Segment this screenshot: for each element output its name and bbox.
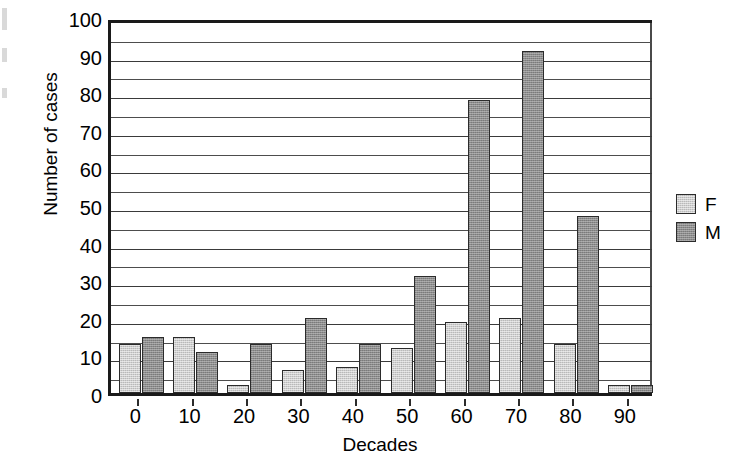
y-axis-tick-label: 40 xyxy=(24,236,102,256)
bar-group xyxy=(383,23,437,393)
x-axis-tick-label: 50 xyxy=(377,404,437,428)
y-axis-tick-label: 0 xyxy=(24,386,102,406)
legend-item-m: M xyxy=(676,218,746,246)
bar-group xyxy=(601,23,655,393)
bar-group xyxy=(274,23,328,393)
legend-swatch-f xyxy=(676,194,696,214)
page-scan-artifact xyxy=(2,8,7,30)
bar-m-70 xyxy=(522,51,544,393)
y-axis-tick-labels: 0102030405060708090100 xyxy=(24,0,102,470)
bar-group xyxy=(220,23,274,393)
chart-legend: FM xyxy=(676,190,746,246)
x-axis-tick-label: 10 xyxy=(160,404,220,428)
page-scan-artifact xyxy=(2,88,7,98)
bar-m-40 xyxy=(359,344,381,393)
bar-f-60 xyxy=(445,322,467,393)
bar-f-50 xyxy=(391,348,413,393)
y-axis-tick-label: 50 xyxy=(24,198,102,218)
plot-area xyxy=(108,20,652,396)
x-axis-title: Decades xyxy=(108,434,652,456)
bar-m-30 xyxy=(305,318,327,393)
bar-f-40 xyxy=(336,367,358,393)
page-scan-artifact xyxy=(2,48,7,62)
legend-label: F xyxy=(705,195,717,214)
bar-f-80 xyxy=(554,344,576,393)
bar-f-10 xyxy=(173,337,195,393)
bar-group xyxy=(329,23,383,393)
y-axis-tick-label: 100 xyxy=(24,10,102,30)
y-axis-tick-label: 80 xyxy=(24,85,102,105)
bar-group xyxy=(111,23,165,393)
x-axis-tick-label: 30 xyxy=(268,404,328,428)
bar-chart-figure: Number of cases 0102030405060708090100 0… xyxy=(0,0,751,470)
x-axis-tick-label: 80 xyxy=(540,404,600,428)
bar-group xyxy=(165,23,219,393)
bar-f-30 xyxy=(282,370,304,393)
x-axis-tick-labels: 0102030405060708090 xyxy=(108,404,652,430)
legend-label: M xyxy=(705,223,721,242)
y-axis-tick-label: 70 xyxy=(24,123,102,143)
bar-m-90 xyxy=(631,385,653,393)
x-axis-tick-label: 70 xyxy=(486,404,546,428)
legend-item-f: F xyxy=(676,190,746,218)
legend-swatch-m xyxy=(676,222,696,242)
x-axis-tick-label: 60 xyxy=(432,404,492,428)
bar-m-0 xyxy=(142,337,164,393)
y-axis-tick-label: 30 xyxy=(24,273,102,293)
y-axis-tick-label: 20 xyxy=(24,311,102,331)
bar-m-20 xyxy=(250,344,272,393)
bar-group xyxy=(437,23,491,393)
bar-group xyxy=(546,23,600,393)
bar-f-70 xyxy=(499,318,521,393)
bar-m-10 xyxy=(196,352,218,393)
y-axis-tick-label: 10 xyxy=(24,348,102,368)
y-axis-tick-label: 90 xyxy=(24,48,102,68)
x-axis-tick-label: 20 xyxy=(214,404,274,428)
bar-f-0 xyxy=(119,344,141,393)
bar-m-80 xyxy=(577,216,599,393)
bar-group xyxy=(492,23,546,393)
x-axis-tick-label: 0 xyxy=(105,404,165,428)
x-axis-tick-label: 40 xyxy=(323,404,383,428)
bar-f-90 xyxy=(608,385,630,393)
y-axis-tick-label: 60 xyxy=(24,160,102,180)
bar-f-20 xyxy=(227,385,249,393)
bar-m-50 xyxy=(414,276,436,393)
bar-groups xyxy=(111,23,652,393)
x-axis-tick-label: 90 xyxy=(595,404,655,428)
bar-m-60 xyxy=(468,100,490,393)
